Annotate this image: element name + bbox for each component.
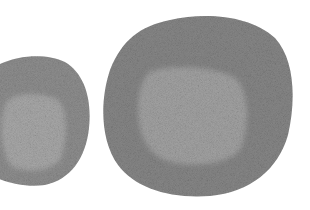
right-cell-nucleus — [138, 67, 247, 165]
right-cell — [103, 16, 292, 196]
cell-scene — [0, 0, 310, 210]
left-cell-nucleus — [1, 94, 65, 170]
